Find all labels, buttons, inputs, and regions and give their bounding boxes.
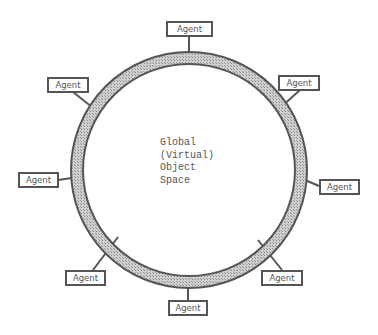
label-line: Object xyxy=(160,162,214,175)
label-line: Global xyxy=(160,137,214,150)
agent-top: Agent xyxy=(166,21,213,37)
agent-lower-right: Agent xyxy=(261,270,303,286)
label-line: (Virtual) xyxy=(160,150,214,163)
agent-right: Agent xyxy=(319,179,360,195)
agent-upper-left: Agent xyxy=(47,77,89,93)
global-object-space-label: Global(Virtual)ObjectSpace xyxy=(160,137,214,187)
agent-lower-left: Agent xyxy=(65,270,106,286)
label-line: Space xyxy=(160,175,214,188)
agent-upper-right: Agent xyxy=(278,75,320,91)
agent-bottom: Agent xyxy=(168,300,208,316)
agent-left: Agent xyxy=(18,172,59,188)
